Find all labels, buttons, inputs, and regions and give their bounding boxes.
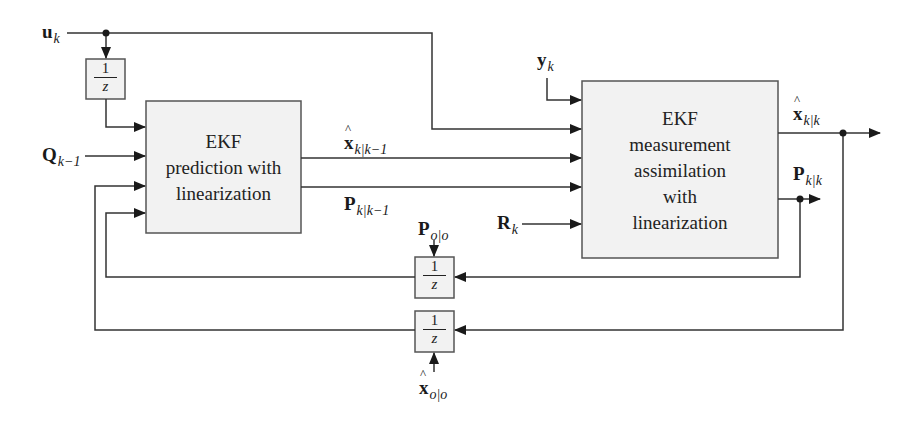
measurement-line-4: with	[582, 184, 778, 210]
q-sub: k−1	[58, 154, 81, 169]
r-label: Rk	[497, 213, 518, 237]
y-label: yk	[537, 50, 554, 74]
p-pred-label: Pk|k−1	[344, 194, 389, 218]
p-pred-sub: k|k−1	[357, 203, 390, 218]
prediction-block-label: EKF prediction with linearization	[146, 129, 301, 207]
x-upd-sub: k|k	[804, 113, 820, 128]
measurement-block-label: EKF measurement assimilation with linear…	[582, 106, 778, 236]
u-label: uk	[42, 22, 60, 46]
measurement-line-2: measurement	[582, 132, 778, 158]
measurement-line-5: linearization	[582, 210, 778, 236]
u-sub: k	[54, 31, 60, 46]
delay-u-to-prediction-line	[106, 99, 145, 127]
delay-p-den: z	[415, 276, 454, 292]
prediction-line-2: prediction with	[146, 155, 301, 181]
p-junction-dot	[797, 196, 804, 203]
delay-p-num: 1	[423, 259, 446, 276]
prediction-line-3: linearization	[146, 181, 301, 207]
u-to-measurement-line	[67, 33, 581, 129]
p-pred-base: P	[344, 193, 356, 214]
delay-x-num: 1	[423, 313, 446, 330]
delay-x-fraction: 1 z	[415, 313, 454, 346]
x-junction-dot	[840, 130, 847, 137]
p-upd-base: P	[793, 163, 805, 184]
delay-u-den: z	[86, 78, 125, 94]
p0-label: Po|o	[418, 219, 448, 243]
delay-u-fraction: 1 z	[86, 61, 125, 94]
x-upd-base: x	[793, 104, 803, 123]
x-upd-label: xk|k	[793, 104, 820, 128]
delay-u-num: 1	[94, 61, 117, 78]
y-base: y	[537, 49, 547, 70]
q-label: Qk−1	[42, 145, 80, 169]
measurement-line-1: EKF	[582, 106, 778, 132]
x-pred-sub: k|k−1	[355, 142, 388, 157]
x0-base: x	[419, 378, 429, 397]
x0-label: xo|o	[419, 378, 447, 402]
q-base: Q	[42, 144, 57, 165]
x-pred-label: xk|k−1	[344, 133, 387, 157]
r-base: R	[497, 212, 511, 233]
y-input-line	[547, 78, 581, 100]
p-upd-label: Pk|k	[793, 164, 822, 188]
x-pred-base: x	[344, 133, 354, 152]
r-sub: k	[512, 222, 518, 237]
y-sub: k	[548, 59, 554, 74]
p0-sub: o|o	[431, 228, 449, 243]
diagram-canvas	[0, 0, 916, 433]
u-base: u	[42, 21, 53, 42]
p-upd-sub: k|k	[806, 173, 822, 188]
x0-sub: o|o	[430, 387, 448, 402]
prediction-line-1: EKF	[146, 129, 301, 155]
measurement-line-3: assimilation	[582, 158, 778, 184]
p0-base: P	[418, 218, 430, 239]
u-junction-dot	[103, 30, 110, 37]
delay-p-fraction: 1 z	[415, 259, 454, 292]
delay-x-den: z	[415, 330, 454, 346]
